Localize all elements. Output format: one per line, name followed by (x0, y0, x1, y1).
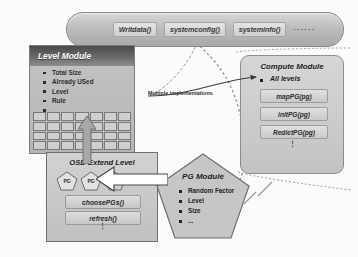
osd-method-ellipsis: ⋮ (47, 224, 157, 228)
grid-cell (47, 112, 60, 121)
grid-cell (33, 112, 46, 121)
pg-attr-level: Level (177, 196, 234, 206)
compute-attr-all-levels: All levels (259, 75, 300, 82)
level-module-box: Level Module Total Size Already USed Lev… (29, 45, 135, 154)
pg-to-osd-block-arrow-icon (96, 166, 168, 192)
grid-cell (61, 112, 74, 121)
level-module-title: Level Module (38, 51, 91, 61)
osd-method-choosepgs[interactable]: choosePGs() (65, 195, 141, 209)
compute-module-box: Compute Module All levels mapPG(pg) init… (240, 55, 344, 174)
api-interface-capsule: Writdata() systemconfig() systeminfo() ·… (66, 12, 344, 47)
api-chip-writdata[interactable]: Writdata() (113, 22, 157, 37)
pg-module-title: PG Module (155, 172, 251, 181)
grid-cell (61, 122, 74, 131)
compute-method-mappg[interactable]: mapPG(pg) (260, 89, 328, 103)
grid-cell (104, 122, 117, 131)
pg-attr-size: Size (177, 206, 234, 216)
pg-node-label: PG (56, 178, 78, 184)
level-attr-level: Level (41, 87, 94, 96)
grid-cell (61, 141, 74, 150)
level-attr-total-size: Total Size (41, 68, 94, 77)
level-attr-already-used: Already USed (41, 77, 94, 86)
grid-cell (104, 132, 117, 141)
pg-module-attribute-list: Random Factor Level Size ... (177, 186, 234, 226)
compute-method-redictpg[interactable]: RedictPG(pg) (260, 125, 328, 139)
grid-cell (33, 122, 46, 131)
compute-module-title: Compute Module (241, 62, 343, 71)
pg-attr-random-factor: Random Factor (177, 186, 234, 196)
pg-module-pentagon: PG Module Random Factor Level Size ... (155, 152, 251, 240)
grid-cell (47, 141, 60, 150)
diagram-canvas: Writdata() systemconfig() systeminfo() ·… (0, 0, 358, 257)
api-chip-systeminfo[interactable]: systeminfo() (233, 22, 287, 37)
level-attr-rule: Rule (41, 96, 94, 105)
pg-attr-ellipsis: ... (177, 216, 234, 226)
multiple-implementations-label: Multiple implementations (148, 90, 213, 96)
grid-cell (47, 132, 60, 141)
api-chip-systemconfig[interactable]: systemconfig() (164, 22, 226, 37)
upward-arrow-icon (78, 116, 96, 164)
grid-cell (104, 141, 117, 150)
grid-cell (118, 122, 131, 131)
grid-cell (118, 112, 131, 121)
api-chip-row: Writdata() systemconfig() systeminfo() ·… (67, 13, 343, 46)
compute-method-initpg[interactable]: initPG(pg) (260, 107, 328, 121)
pg-node-pentagon-1[interactable]: PG (56, 171, 78, 191)
grid-cell (33, 141, 46, 150)
api-ellipsis: ······ (293, 25, 315, 34)
compute-method-ellipsis: ⋮ (241, 141, 343, 146)
level-module-attribute-list: Total Size Already USed Level Rule ... (41, 68, 94, 115)
grid-cell (104, 112, 117, 121)
grid-cell (118, 132, 131, 141)
grid-cell (118, 141, 131, 150)
grid-cell (47, 122, 60, 131)
grid-cell (33, 132, 46, 141)
grid-cell (61, 132, 74, 141)
